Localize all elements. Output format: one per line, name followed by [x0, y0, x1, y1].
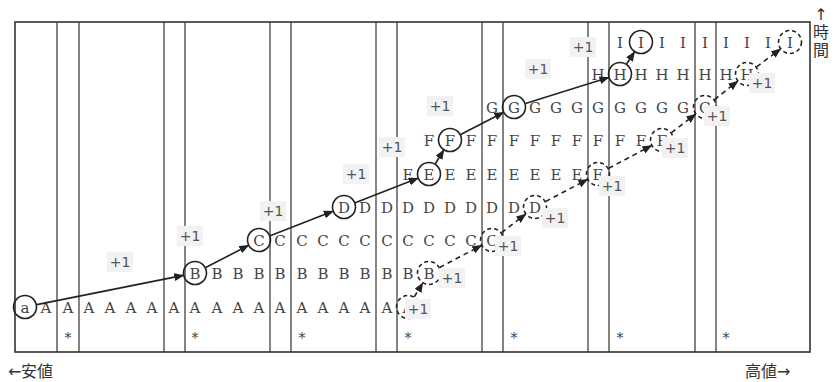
grid-letter: G	[571, 99, 583, 117]
plus-one-label: +1	[430, 98, 451, 114]
grid-letter: D	[508, 199, 520, 217]
grid-letter: E	[551, 166, 562, 184]
grid-letter: F	[636, 132, 646, 150]
dashed-arrow	[714, 81, 737, 99]
plus-one-label: +1	[408, 301, 429, 317]
grid-letter: F	[509, 132, 519, 150]
grid-letter: C	[338, 232, 349, 250]
grid-letter: D	[338, 199, 350, 217]
grid-letter: G	[677, 99, 689, 117]
grid-letter: A	[232, 299, 244, 317]
grid-letter: F	[445, 132, 455, 150]
grid-letter: D	[529, 199, 541, 217]
time-label-text: 時間	[813, 24, 829, 60]
high-price-label: 高値→	[745, 358, 790, 382]
grid-letter: F	[530, 132, 540, 150]
solid-arrow	[627, 52, 635, 64]
plus-one-label: +1	[498, 238, 519, 254]
grid-letter: E	[530, 166, 541, 184]
dashed-arrow	[414, 283, 422, 297]
grid-letter: *	[405, 330, 412, 346]
dashed-arrow	[502, 214, 526, 232]
grid-letter: I	[680, 34, 686, 52]
plus-one-label: +1	[602, 178, 623, 194]
grid-letter: F	[424, 132, 434, 150]
plus-one-labels: +1+1+1+1+1+1+1+1+1+1+1+1+1+1+1+1	[107, 37, 775, 319]
grid-letter: I	[765, 34, 771, 52]
grid-letter: G	[635, 99, 647, 117]
grid-letter: C	[317, 232, 328, 250]
grid-letter: *	[192, 330, 199, 346]
grid-letter: F	[487, 132, 497, 150]
grid-letter: C	[253, 232, 264, 250]
grid-letter: E	[487, 166, 498, 184]
grid-letter: I	[638, 34, 644, 52]
grid-letter: F	[615, 132, 625, 150]
grid-letter: B	[232, 265, 243, 283]
grid-letter: C	[423, 232, 434, 250]
grid-letter: H	[698, 66, 711, 84]
grid-letter: E	[445, 166, 456, 184]
solid-arrow	[435, 150, 443, 164]
grid-letter: G	[592, 99, 604, 117]
plus-one-label: +1	[180, 228, 201, 244]
plus-one-label: +1	[545, 210, 566, 226]
grid-letter: C	[402, 232, 413, 250]
grid-letter: D	[359, 199, 371, 217]
grid-letter: D	[423, 199, 435, 217]
plus-one-label: +1	[442, 270, 463, 286]
grid-letter: D	[402, 199, 414, 217]
grid-letter: B	[338, 265, 349, 283]
grid-letter: A	[296, 299, 308, 317]
grid-letter: H	[655, 66, 668, 84]
grid-letter: C	[359, 232, 370, 250]
grid-letter: *	[65, 330, 72, 346]
grid-letter: I	[723, 34, 729, 52]
grid-letter: A	[359, 299, 371, 317]
grid-letter: E	[424, 166, 435, 184]
grid-letter: C	[274, 232, 285, 250]
grid-letter: A	[125, 299, 137, 317]
grid-letter: C	[381, 232, 392, 250]
price-time-diagram: AAAAAAAAAAAAAAAAAABBBBBBBBBBBBCCCCCCCCCC…	[0, 0, 837, 382]
grid-letter: A	[62, 299, 74, 317]
grid-letter: A	[338, 299, 350, 317]
grid-letter: H	[676, 66, 689, 84]
grid-letter: C	[444, 232, 455, 250]
grid-letter: *	[511, 330, 518, 346]
grid-letter: D	[381, 199, 393, 217]
grid-letter: B	[402, 265, 413, 283]
grid-letter: G	[486, 99, 498, 117]
low-price-label: ←安値	[8, 358, 53, 382]
grid-letter: I	[787, 34, 793, 52]
grid-letter: C	[296, 232, 307, 250]
grid-letter: I	[659, 34, 665, 52]
grid-letter: *	[299, 330, 306, 346]
grid-letter: I	[702, 34, 708, 52]
grid-letter: B	[381, 265, 392, 283]
grid-letter: D	[444, 199, 456, 217]
grid-letter: B	[296, 265, 307, 283]
grid-letter: E	[466, 166, 477, 184]
plus-one-label: +1	[752, 75, 773, 91]
grid-letter: a	[21, 299, 30, 317]
grid-letter: B	[317, 265, 328, 283]
grid-letter: G	[656, 99, 668, 117]
plus-one-label: +1	[346, 166, 367, 182]
grid-letter: A	[317, 299, 329, 317]
grid-letter: A	[168, 299, 180, 317]
grid-letter: G	[550, 99, 562, 117]
plus-one-label: +1	[263, 203, 284, 219]
grid-letter: C	[465, 232, 476, 250]
grid-letter: B	[253, 265, 264, 283]
grid-letter: A	[211, 299, 223, 317]
plus-one-label: +1	[573, 39, 594, 55]
grid-letter: E	[509, 166, 520, 184]
grid-letter: A	[253, 299, 265, 317]
grid-letter: H	[613, 66, 626, 84]
time-axis-label: ↑ 時間	[810, 6, 832, 60]
grid-letter: A	[274, 299, 286, 317]
grid-letter: G	[508, 99, 520, 117]
grid-letter: I	[744, 34, 750, 52]
grid-letter: D	[486, 199, 498, 217]
